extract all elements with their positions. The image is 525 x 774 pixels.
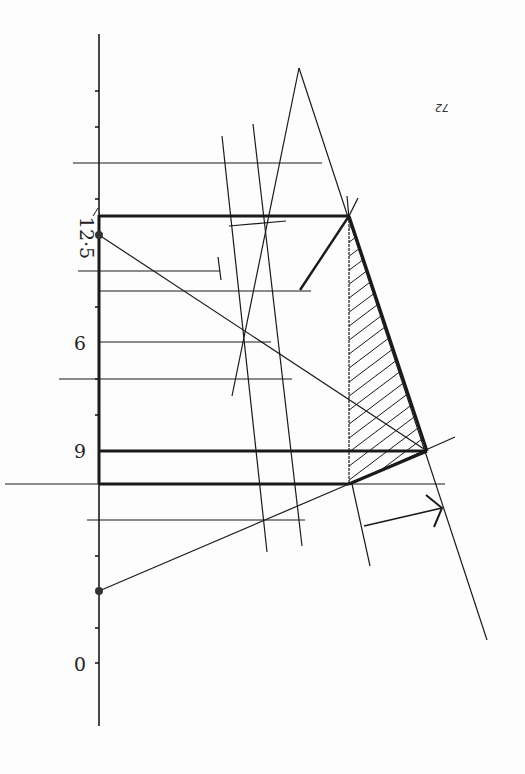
page-number: 72 (435, 101, 449, 114)
axis-label-6: 6 (74, 440, 86, 462)
slanted-lines (99, 68, 487, 640)
svg-text:12·5: 12·5 (76, 217, 98, 259)
axis-label-0: 0 (74, 653, 86, 675)
svg-text:9: 9 (74, 332, 86, 354)
axis-label-12-5: 12·5 (76, 217, 98, 259)
dimension-arrow (364, 495, 442, 527)
hatched-triangle (320, 190, 430, 516)
label-leader (93, 208, 98, 216)
svg-text:72: 72 (435, 101, 449, 114)
point-12-5 (95, 231, 103, 239)
vertical-axis (95, 34, 99, 726)
svg-text:6: 6 (74, 440, 86, 462)
geometric-construction-diagram: 72 12·5 9 6 0 (0, 0, 525, 774)
point-lower (95, 587, 103, 595)
svg-text:0: 0 (74, 653, 86, 675)
axis-label-9: 9 (74, 332, 86, 354)
